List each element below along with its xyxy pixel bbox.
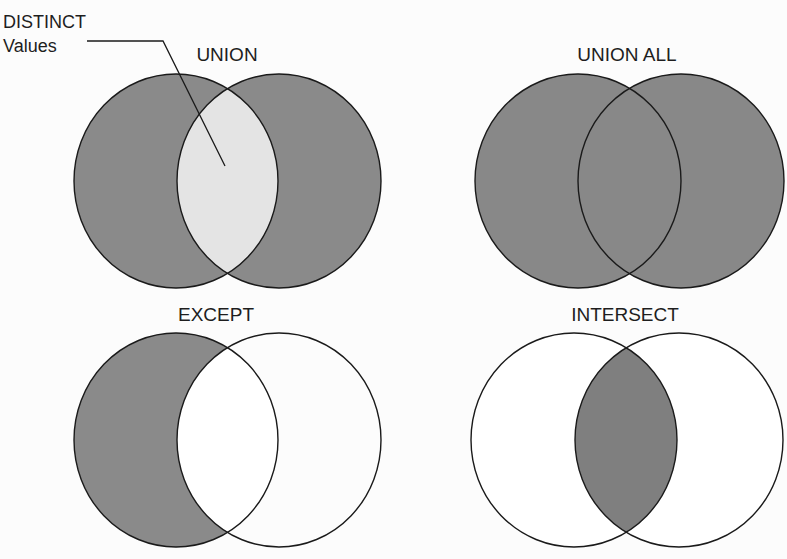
panel-title-intersect: INTERSECT [571,304,679,325]
set-operators-diagram: UNION DISTINCT Values UNION ALL [0,0,787,559]
callout-line1: DISTINCT [3,12,86,32]
venn-except [74,333,381,547]
panel-intersect: INTERSECT [471,304,783,547]
callout-line2: Values [3,36,57,56]
panel-title-except: EXCEPT [178,304,254,325]
panel-except: EXCEPT [74,304,381,547]
venn-union-all [475,74,784,288]
panel-title-union: UNION [196,44,257,65]
panel-union-all: UNION ALL [475,44,784,288]
venn-union [74,74,381,288]
venn-intersect [471,333,783,547]
except-overlap-removed [177,333,381,547]
panel-title-union-all: UNION ALL [577,44,676,65]
panel-union: UNION [74,44,381,288]
